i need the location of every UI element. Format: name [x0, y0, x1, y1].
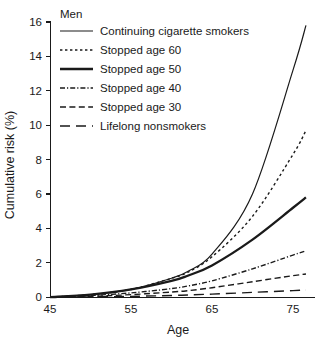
legend-item-stopped-age-60[interactable]: Stopped age 60 — [60, 44, 181, 56]
y-tick-marks — [46, 22, 50, 297]
y-tick-label: 10 — [29, 119, 42, 131]
x-axis-title: Age — [167, 323, 189, 337]
chart-figure: 16 14 12 10 8 6 4 2 0 45 55 65 75 Age Cu… — [0, 0, 325, 346]
legend-label: Lifelong nonsmokers — [100, 120, 206, 132]
y-tick-label: 14 — [29, 50, 42, 62]
legend-item-stopped-age-40[interactable]: Stopped age 40 — [60, 82, 181, 94]
y-tick-label: 8 — [36, 154, 42, 166]
legend-item-stopped-age-30[interactable]: Stopped age 30 — [60, 101, 181, 113]
y-tick-label: 16 — [29, 16, 42, 28]
x-tick-label: 65 — [206, 303, 219, 315]
legend-item-continuing-cigarette-smokers[interactable]: Continuing cigarette smokers — [60, 25, 249, 37]
legend-label: Stopped age 30 — [100, 101, 181, 113]
legend-label: Continuing cigarette smokers — [100, 25, 249, 37]
x-tick-labels: 45 55 65 75 — [44, 303, 300, 315]
series-line-stopped-age-40 — [50, 251, 306, 297]
line-chart: 16 14 12 10 8 6 4 2 0 45 55 65 75 Age Cu… — [0, 0, 325, 346]
y-axis-title: Cumulative risk (%) — [3, 111, 17, 219]
x-tick-label: 45 — [44, 303, 57, 315]
y-tick-label: 12 — [29, 85, 42, 97]
legend-item-lifelong-nonsmokers[interactable]: Lifelong nonsmokers — [60, 120, 206, 132]
legend-item-stopped-age-50[interactable]: Stopped age 50 — [60, 63, 181, 75]
y-tick-label: 4 — [36, 222, 43, 234]
legend-title: Men — [60, 8, 82, 20]
series-line-stopped-age-60 — [50, 130, 306, 297]
y-tick-label: 2 — [36, 257, 42, 269]
chart-legend: Men Continuing cigarette smokers Stopped… — [60, 8, 249, 132]
x-tick-label: 75 — [287, 303, 300, 315]
x-tick-label: 55 — [125, 303, 138, 315]
series-line-stopped-age-50 — [50, 197, 306, 297]
y-tick-label: 0 — [36, 291, 42, 303]
legend-label: Stopped age 40 — [100, 82, 181, 94]
legend-label: Stopped age 60 — [100, 44, 181, 56]
y-tick-label: 6 — [36, 188, 42, 200]
y-tick-labels: 16 14 12 10 8 6 4 2 0 — [29, 16, 42, 303]
legend-label: Stopped age 50 — [100, 63, 181, 75]
